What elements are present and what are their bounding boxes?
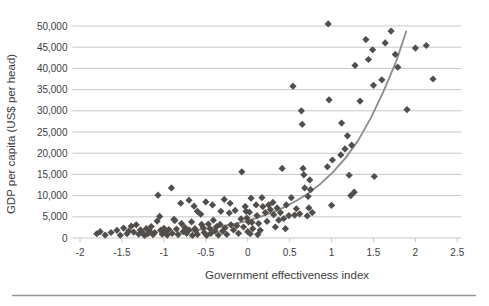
y-tick-label: 50,000 [37,21,68,32]
data-point-marker [202,198,209,205]
data-point-marker [307,186,314,193]
data-point-marker [272,223,279,230]
data-point-marker [217,208,224,215]
y-tick-label: 45,000 [37,42,68,53]
y-tick-label: 0 [62,233,68,244]
data-point-marker [291,212,298,219]
data-point-marker [346,172,353,179]
data-point-marker [429,75,436,82]
x-tick-label: 2 [413,247,419,258]
data-point-marker [209,201,216,208]
data-point-marker [337,151,344,158]
y-axis-tick-labels: 05,00010,00015,00020,00025,00030,00035,0… [37,21,68,244]
data-point-marker [240,223,247,230]
y-tick-label: 30,000 [37,105,68,116]
data-point-marker [403,106,410,113]
x-tick-label: 1.5 [367,247,381,258]
x-tick-label: 2.5 [450,247,464,258]
x-tick-label: -1.5 [113,247,131,258]
y-tick-label: 5,000 [42,211,67,222]
data-point-marker [299,121,306,128]
data-point-marker [210,217,217,224]
data-point-marker [255,220,262,227]
data-point-marker [329,156,336,163]
y-tick-label: 25,000 [37,127,68,138]
data-point-marker [177,200,184,207]
data-point-marker [362,36,369,43]
data-point-marker [263,218,270,225]
data-point-marker [188,218,195,225]
x-tick-label: -2 [76,247,85,258]
data-points [93,20,436,239]
data-point-marker [289,83,296,90]
x-tick-label: 1 [329,247,335,258]
data-point-marker [328,202,335,209]
data-point-marker [344,132,351,139]
x-axis-tick-labels: -2-1.5-1-0.500.511.522.5 [76,247,465,258]
data-point-marker [341,145,348,152]
x-axis-ticks [80,238,457,242]
data-point-marker [185,197,192,204]
figure-container: 05,00010,00015,00020,00025,00030,00035,0… [0,0,489,306]
y-tick-label: 15,000 [37,169,68,180]
data-point-marker [298,107,305,114]
y-tick-label: 20,000 [37,148,68,159]
data-point-marker [154,192,161,199]
data-point-marker [282,225,289,232]
data-point-marker [227,200,234,207]
data-point-marker [221,196,228,203]
data-point-marker [387,27,394,34]
x-tick-label: -0.5 [197,247,215,258]
data-point-marker [365,56,372,63]
data-point-marker [338,119,345,126]
data-point-marker [168,184,175,191]
scatter-chart: 05,00010,00015,00020,00025,00030,00035,0… [0,0,489,306]
data-point-marker [133,221,140,228]
data-point-marker [324,163,331,170]
x-axis-title: Government effectiveness index [205,269,369,281]
data-point-marker [356,97,363,104]
data-point-marker [253,201,260,208]
y-tick-label: 35,000 [37,84,68,95]
data-point-marker [301,184,308,191]
x-tick-label: 0.5 [283,247,297,258]
y-tick-label: 40,000 [37,63,68,74]
data-point-marker [278,165,285,172]
data-point-marker [423,42,430,49]
data-point-marker [306,176,313,183]
data-point-marker [370,82,377,89]
data-point-marker [348,142,355,149]
x-tick-label: 0 [245,247,251,258]
data-point-marker [304,193,311,200]
data-point-marker [382,39,389,46]
y-tick-label: 10,000 [37,190,68,201]
data-point-marker [325,96,332,103]
data-point-marker [299,165,306,172]
data-point-marker [412,44,419,51]
data-point-marker [300,171,307,178]
y-axis-title: GDP per capita (US$ per head) [5,54,17,214]
x-tick-label: -1 [159,247,168,258]
data-point-marker [378,76,385,83]
